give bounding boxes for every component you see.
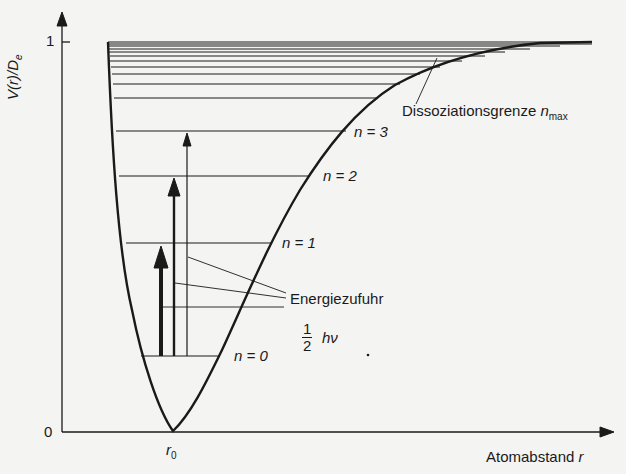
zero-point-energy-fraction: 1 2 bbox=[302, 321, 312, 354]
arrow-medium-head-icon bbox=[168, 178, 180, 196]
zero-point-energy-hv: hν bbox=[322, 330, 338, 345]
label-n2: n = 2 bbox=[323, 168, 357, 183]
y-axis-label: V(r)/De bbox=[4, 54, 24, 100]
axes bbox=[57, 12, 614, 437]
y-axis-arrow-icon bbox=[57, 12, 67, 26]
upper-levels bbox=[108, 42, 592, 98]
stray-dot bbox=[367, 354, 370, 357]
arrow-thick-head-icon bbox=[154, 246, 168, 268]
potential-curve bbox=[108, 42, 592, 431]
label-n3: n = 3 bbox=[354, 124, 388, 139]
energy-leaders bbox=[161, 257, 286, 307]
label-n1: n = 1 bbox=[282, 235, 316, 250]
dissociation-leader bbox=[416, 58, 437, 104]
x-axis-arrow-icon bbox=[600, 427, 614, 437]
excitation-arrows bbox=[154, 133, 191, 356]
arrow-thin-head-icon bbox=[183, 133, 191, 146]
energy-input-label: Energiezufuhr bbox=[290, 291, 383, 306]
y-tick-label-0: 0 bbox=[44, 424, 52, 439]
dissociation-label: Dissoziationsgrenze nmax bbox=[402, 103, 568, 122]
y-tick-label-1: 1 bbox=[46, 33, 54, 48]
x-axis-label: Atomabstand r bbox=[486, 449, 584, 464]
x-tick-label-r0: r0 bbox=[166, 442, 177, 461]
label-n0: n = 0 bbox=[234, 348, 268, 363]
